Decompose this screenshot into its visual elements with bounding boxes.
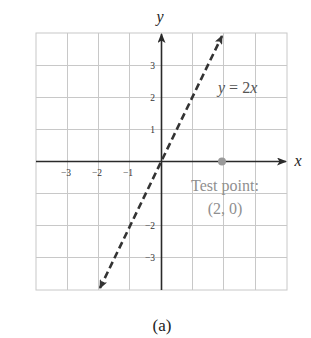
y-tick-label: −3: [145, 253, 155, 263]
x-axis-label: x: [293, 152, 301, 169]
graph-figure: x y −3 −2 −1 3 2 1 −2 −3 y = 2x Test poi…: [0, 0, 311, 338]
test-point-label-line2: (2, 0): [208, 200, 243, 218]
x-tick-label: −2: [92, 168, 102, 178]
equation-label: y = 2x: [216, 79, 257, 97]
x-tick-label: −1: [123, 168, 133, 178]
test-point-label-line1: Test point:: [191, 177, 259, 195]
y-axis-label: y: [154, 8, 164, 26]
coordinate-plane: x y −3 −2 −1 3 2 1 −2 −3 y = 2x Test poi…: [0, 0, 311, 338]
y-tick-label: 1: [150, 125, 155, 135]
y-tick-label: −2: [145, 221, 155, 231]
y-tick-label: 2: [150, 93, 155, 103]
test-point-marker: [218, 158, 226, 166]
y-tick-label: 3: [150, 61, 155, 71]
x-tick-label: −3: [61, 168, 71, 178]
figure-caption: (a): [153, 316, 172, 335]
